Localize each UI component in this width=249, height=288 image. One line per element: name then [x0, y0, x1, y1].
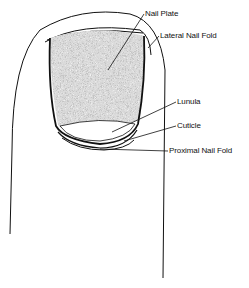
label-cuticle: Cuticle	[177, 122, 201, 130]
leader-lateral-nail-fold	[148, 36, 159, 48]
label-lunula: Lunula	[177, 98, 200, 106]
label-proximal-nail-fold: Proximal Nail Fold	[169, 147, 232, 155]
label-nail-plate: Nail Plate	[145, 10, 178, 18]
fingernail-diagram	[0, 0, 249, 288]
label-lateral-nail-fold: Lateral Nail Fold	[160, 32, 217, 40]
